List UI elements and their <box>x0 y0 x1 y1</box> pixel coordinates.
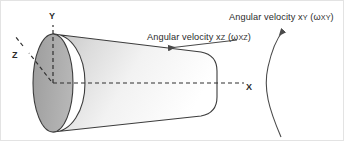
angular-velocity-xy-label: Angular velocity xY (ωXY) <box>229 12 334 22</box>
axis-z-line-outer <box>15 36 23 46</box>
angular-velocity-xz-label: Angular velocity xZ (ωXZ) <box>147 32 251 42</box>
diagram-canvas: Y Z X Angular velocity xY (ωXY) Angular … <box>0 0 344 141</box>
cone-angular-velocity-svg: Y Z X Angular velocity xY (ωXY) Angular … <box>1 1 344 141</box>
axis-x-label: X <box>246 82 252 92</box>
xz-label-paren-open: (ω <box>225 32 238 42</box>
xz-label-prefix: Angular velocity x <box>147 32 221 42</box>
axis-z-label: Z <box>12 50 18 60</box>
xz-label-paren-close: ) <box>248 32 251 42</box>
xy-label-paren-open: (ω <box>308 12 321 22</box>
xy-label-paren-close: ) <box>331 12 334 22</box>
axis-y-label: Y <box>49 11 55 21</box>
xy-label-sub2: XY <box>321 13 331 22</box>
xy-label-prefix: Angular velocity x <box>229 12 303 22</box>
angular-velocity-xy-arrow <box>266 31 283 137</box>
